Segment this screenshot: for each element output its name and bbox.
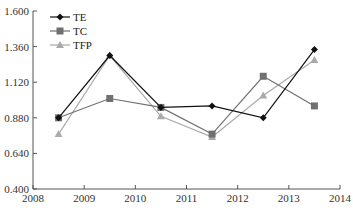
data-point-triangle-icon xyxy=(55,130,63,137)
legend-label: TE xyxy=(73,11,87,23)
x-tick-label: 2008 xyxy=(22,192,45,204)
legend: TETCTFP xyxy=(50,11,92,51)
y-tick-label: 0.640 xyxy=(4,147,29,159)
x-tick-label: 2012 xyxy=(227,192,249,204)
series-line xyxy=(59,56,315,138)
data-point-triangle-icon xyxy=(310,56,318,63)
series-tfp xyxy=(55,52,319,141)
series-tc xyxy=(55,73,318,138)
axes: 0.4000.6400.8801.1201.3601.6002008200920… xyxy=(4,5,351,204)
legend-label: TC xyxy=(73,25,87,37)
x-tick-label: 2010 xyxy=(124,192,147,204)
data-point-diamond-icon xyxy=(209,102,216,109)
data-point-square-icon xyxy=(260,73,267,80)
legend-item-te: TE xyxy=(50,11,87,23)
series-group xyxy=(55,46,319,140)
x-tick-label: 2009 xyxy=(73,192,96,204)
data-point-square-icon xyxy=(106,95,113,102)
x-tick-label: 2014 xyxy=(329,192,352,204)
data-point-square-icon xyxy=(311,102,318,109)
x-tick-label: 2011 xyxy=(176,192,198,204)
legend-item-tc: TC xyxy=(50,25,87,37)
legend-item-tfp: TFP xyxy=(50,39,92,51)
y-tick-label: 1.600 xyxy=(4,5,29,17)
legend-label: TFP xyxy=(73,39,92,51)
x-tick-label: 2013 xyxy=(278,192,301,204)
series-te xyxy=(55,46,318,121)
series-line xyxy=(59,76,315,134)
legend-square-icon xyxy=(57,28,64,35)
y-tick-label: 1.120 xyxy=(4,76,29,88)
data-point-triangle-icon xyxy=(259,92,267,99)
data-point-square-icon xyxy=(209,131,216,138)
y-tick-label: 1.360 xyxy=(4,41,29,53)
y-tick-label: 0.880 xyxy=(4,112,29,124)
line-chart: 0.4000.6400.8801.1201.3601.6002008200920… xyxy=(0,0,353,215)
legend-diamond-icon xyxy=(57,14,64,21)
